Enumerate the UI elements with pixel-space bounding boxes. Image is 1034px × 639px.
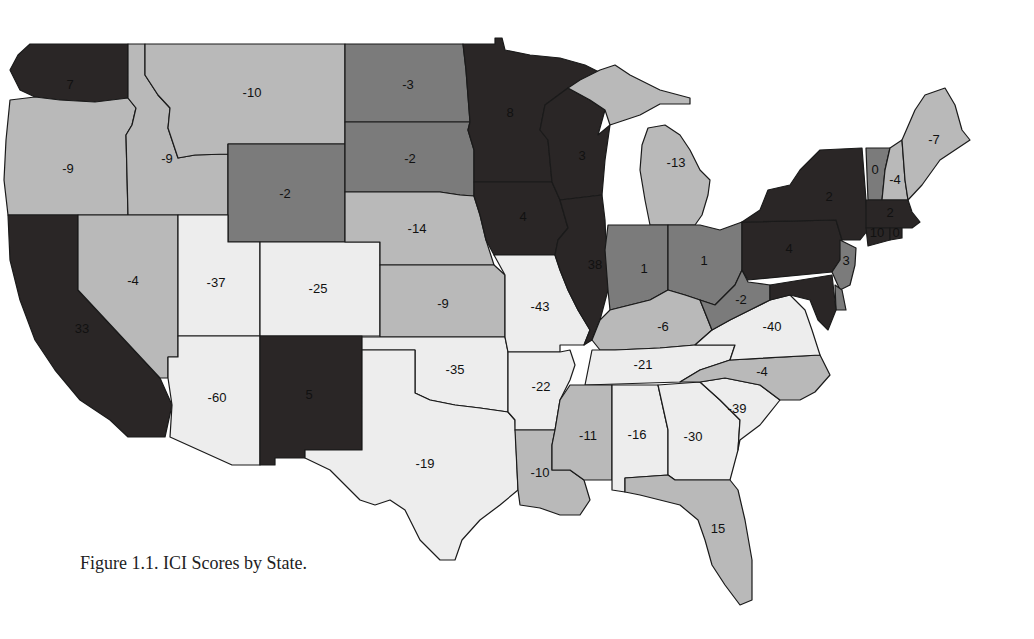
label-WV: -2 [735,292,747,307]
label-SC: -39 [728,401,747,416]
label-AZ: -60 [208,390,227,405]
label-NM: 5 [305,387,312,402]
label-WI: 3 [578,148,585,163]
label-WY: -2 [279,186,291,201]
label-ND: -3 [402,77,414,92]
label-NY: 2 [825,189,832,204]
figure-caption: Figure 1.1. ICI Scores by State. [80,553,307,574]
label-AR: -22 [532,379,551,394]
label-MO: -43 [531,299,550,314]
label-IA: 4 [519,209,526,224]
label-KY: -6 [657,319,669,334]
us-choropleth-map: 7 -9 33 -9 -4 -10 -2 -37 -25 -60 5 -3 -2… [0,0,1034,639]
label-NJ: 3 [842,253,849,268]
map-figure: 7 -9 33 -9 -4 -10 -2 -37 -25 -60 5 -3 -2… [0,0,1034,639]
label-NE: -14 [408,221,427,236]
label-NH: -4 [889,172,901,187]
label-RI: 0 [892,225,899,240]
label-WA: 7 [66,77,73,92]
label-ME: -7 [928,132,940,147]
state-FL [625,475,752,605]
label-MI: -13 [667,155,686,170]
label-OK: -35 [446,362,465,377]
label-LA: -10 [531,465,550,480]
label-MS: -11 [579,428,597,443]
label-NV: -4 [127,273,139,288]
state-OR [4,97,136,215]
label-MT: -10 [243,85,262,100]
label-SD: -2 [404,151,416,166]
state-DE [835,285,846,310]
label-IN: 1 [640,261,647,276]
label-CT: 10 [870,225,884,240]
label-IL: 38 [588,257,602,272]
label-NC: -4 [756,364,768,379]
label-GA: -30 [684,429,703,444]
label-OH: 1 [700,253,707,268]
label-FL: 15 [711,521,725,536]
label-OR: -9 [62,161,74,176]
state-MT [145,44,345,158]
label-VT: 0 [871,162,878,177]
label-MN: 8 [506,105,513,120]
label-MA: 2 [886,205,893,220]
label-CA: 33 [75,321,89,336]
label-AL: -16 [628,427,647,442]
state-WA [10,44,128,102]
label-ID: -9 [161,151,173,166]
label-TN: -21 [634,357,653,372]
label-KS: -9 [437,296,449,311]
label-TX: -19 [416,456,435,471]
label-VA: -40 [763,319,782,334]
label-CO: -25 [309,281,328,296]
label-UT: -37 [207,275,226,290]
label-PA: 4 [785,241,792,256]
state-MI [640,125,710,225]
